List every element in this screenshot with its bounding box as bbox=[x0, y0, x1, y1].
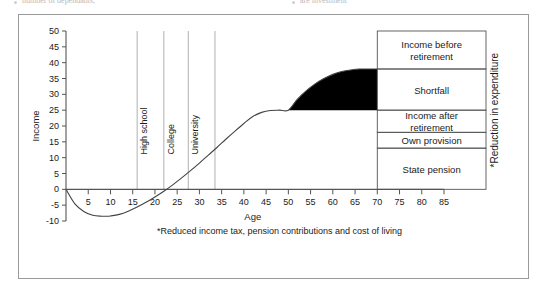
x-tick-label: 15 bbox=[128, 197, 138, 207]
y-tick-label: 15 bbox=[49, 137, 59, 147]
legend-band-label: Shortfall bbox=[414, 85, 449, 96]
education-marker-labels: High school College University bbox=[139, 107, 200, 154]
y-tick-label: 10 bbox=[49, 153, 59, 163]
education-label-college: College bbox=[166, 124, 176, 155]
y-axis-title: Income bbox=[30, 110, 41, 141]
x-axis-ticks: 510152025303540455055606570758085 bbox=[86, 189, 449, 207]
x-tick-label: 80 bbox=[417, 197, 427, 207]
x-tick-label: 45 bbox=[261, 197, 271, 207]
top-partial-text-left: number of dependants, bbox=[22, 0, 95, 5]
x-tick-label: 50 bbox=[283, 197, 293, 207]
x-tick-label: 5 bbox=[86, 197, 91, 207]
y-tick-label: 25 bbox=[49, 105, 59, 115]
y-tick-label: 35 bbox=[49, 74, 59, 84]
shortfall-shaded-region bbox=[288, 69, 377, 110]
y-tick-label: -10 bbox=[46, 216, 59, 226]
x-tick-label: 60 bbox=[328, 197, 338, 207]
right-side-axis-label: *Reduction in expenditure bbox=[489, 52, 500, 167]
x-tick-label: 40 bbox=[239, 197, 249, 207]
legend-band-box bbox=[377, 31, 486, 69]
y-tick-label: 5 bbox=[54, 169, 59, 179]
y-tick-label: 0 bbox=[54, 184, 59, 194]
y-tick-label: 30 bbox=[49, 89, 59, 99]
bullet-dot-icon bbox=[292, 1, 295, 4]
y-tick-label: -5 bbox=[51, 200, 59, 210]
x-axis-title: Age bbox=[244, 211, 261, 222]
education-label-high-school: High school bbox=[139, 107, 149, 154]
legend-band-label: Own provision bbox=[402, 135, 462, 146]
chart-footnote: *Reduced income tax, pension contributio… bbox=[157, 226, 402, 236]
x-tick-label: 75 bbox=[395, 197, 405, 207]
chart-plot-area: High school College University 504540353… bbox=[19, 15, 530, 280]
y-tick-label: 40 bbox=[49, 58, 59, 68]
x-tick-label: 65 bbox=[350, 197, 360, 207]
bullet-dot-icon bbox=[14, 1, 17, 4]
education-label-university: University bbox=[190, 114, 200, 154]
x-tick-label: 35 bbox=[217, 197, 227, 207]
y-axis-ticks: 50454035302520151050-5-10 bbox=[46, 26, 66, 226]
legend-band-boxes: Income beforeretirementShortfallIncome a… bbox=[377, 31, 486, 189]
legend-band-label: retirement bbox=[410, 51, 453, 62]
y-tick-label: 45 bbox=[49, 42, 59, 52]
y-tick-label: 20 bbox=[49, 121, 59, 131]
income-vs-age-chart: High school College University 504540353… bbox=[19, 15, 530, 280]
top-cutoff-text-strip: number of dependants, are investment bbox=[0, 0, 547, 14]
legend-band-label: State pension bbox=[403, 164, 461, 175]
legend-band-label: Income after bbox=[405, 110, 458, 121]
x-tick-label: 10 bbox=[105, 197, 115, 207]
legend-band-label: retirement bbox=[410, 122, 453, 133]
top-partial-text-right: are investment bbox=[300, 0, 347, 5]
y-tick-label: 50 bbox=[49, 26, 59, 36]
x-tick-label: 25 bbox=[172, 197, 182, 207]
figure-frame: High school College University 504540353… bbox=[18, 14, 529, 279]
x-tick-label: 55 bbox=[306, 197, 316, 207]
x-tick-label: 85 bbox=[439, 197, 449, 207]
x-tick-label: 70 bbox=[372, 197, 382, 207]
legend-band-label: Income before bbox=[401, 39, 462, 50]
x-tick-label: 30 bbox=[194, 197, 204, 207]
